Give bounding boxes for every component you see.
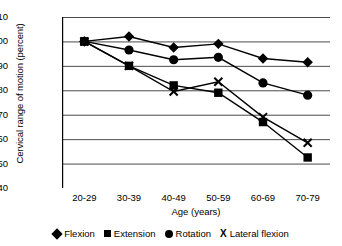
y-tick-50: 50: [0, 159, 8, 169]
legend-item-flexion: Flexion: [53, 228, 95, 239]
marker-flexion-2: [168, 42, 178, 52]
diamond-marker: [52, 228, 63, 239]
marker-rotation-4: [258, 78, 267, 87]
circle-marker: [165, 230, 173, 238]
marker-flexion-4: [258, 53, 268, 63]
y-tick-70: 70: [0, 110, 8, 120]
marker-rotation-2: [169, 55, 178, 64]
marker-flexion-1: [124, 31, 134, 41]
marker-rotation-1: [124, 45, 133, 54]
y-tick-100: 100: [0, 36, 8, 46]
chart-legend: FlexionExtensionRotationXLateral flexion: [0, 228, 342, 239]
marker-extension-5: [303, 153, 311, 161]
legend-label: Lateral flexion: [230, 228, 289, 239]
y-tick-60: 60: [0, 134, 8, 144]
legend-label: Rotation: [176, 228, 211, 239]
legend-item-lateral-flexion: XLateral flexion: [220, 228, 289, 239]
y-axis-label: Cervical range of motion (percent): [14, 14, 25, 174]
x-marker: X: [220, 229, 227, 239]
cervical-rom-chart: Cervical range of motion (percent) 40506…: [0, 0, 342, 246]
y-tick-40: 40: [0, 183, 8, 193]
marker-flexion-3: [213, 39, 223, 49]
y-tick-90: 90: [0, 61, 8, 71]
x-axis-label: Age (years): [62, 206, 330, 217]
y-tick-110: 110: [0, 12, 8, 22]
chart-canvas: [62, 17, 330, 188]
y-tick-80: 80: [0, 85, 8, 95]
legend-item-rotation: Rotation: [165, 228, 211, 239]
x-tick-70-79: 70-79: [278, 192, 338, 203]
marker-flexion-5: [302, 57, 312, 67]
series-line-lateral-flexion: [84, 41, 307, 142]
legend-label: Flexion: [64, 228, 95, 239]
marker-rotation-3: [214, 53, 223, 62]
marker-extension-3: [214, 89, 222, 97]
legend-label: Extension: [114, 228, 156, 239]
square-marker: [104, 230, 111, 237]
plot-area: [62, 17, 330, 188]
legend-item-extension: Extension: [104, 228, 156, 239]
marker-rotation-5: [303, 91, 312, 100]
